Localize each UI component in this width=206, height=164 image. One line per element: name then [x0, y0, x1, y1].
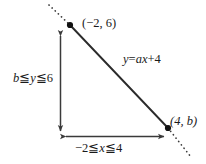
- x-range-le-1: ≦: [88, 141, 99, 155]
- point-marker-top: [67, 22, 73, 28]
- x-range-le-2: ≦: [105, 141, 116, 155]
- line-segment-main: [70, 25, 168, 128]
- equation-label: y=ax+4: [123, 53, 161, 66]
- x-range-neg-two: −2: [75, 141, 88, 155]
- point-label-bottom: (4, b): [170, 115, 197, 128]
- line-graph-figure: (−2, 6) (4, b) y=ax+4 b≦y≦6 −2≦x≦4: [0, 0, 206, 164]
- y-range-six: 6: [47, 71, 53, 85]
- line-dotted-extension-upper: [49, 5, 70, 25]
- x-range-label: −2≦x≦4: [75, 142, 122, 155]
- equation-plus-four: +4: [147, 52, 160, 66]
- point-label-bottom-text: (4, b): [170, 114, 197, 128]
- point-label-top: (−2, 6): [82, 17, 116, 30]
- equation-equals: =: [129, 52, 136, 66]
- y-range-label: b≦y≦6: [13, 72, 53, 85]
- y-range-le-1: ≦: [19, 71, 30, 85]
- y-range-le-2: ≦: [36, 71, 47, 85]
- x-range-four: 4: [116, 141, 122, 155]
- line-dotted-extension-lower: [168, 128, 191, 157]
